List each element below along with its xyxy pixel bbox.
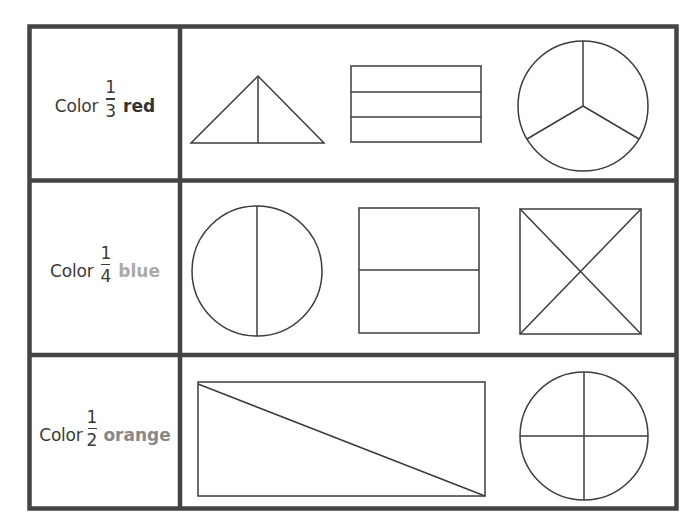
square-halves-shape[interactable]: [359, 208, 479, 333]
fraction-denominator: 4: [100, 268, 111, 285]
fraction-bar: [106, 98, 115, 100]
fraction-one-half: 1 2: [87, 421, 98, 450]
instruction-word: Color: [39, 425, 82, 445]
fraction-denominator: 3: [105, 103, 116, 120]
fraction-bar: [101, 264, 110, 266]
fraction-numerator: 1: [100, 245, 111, 262]
fraction-bar: [88, 428, 97, 430]
instruction-word: Color: [50, 261, 93, 281]
circle-halves-shape[interactable]: [192, 206, 322, 336]
fraction-one-fourth: 1 4: [100, 257, 111, 286]
fraction-one-third: 1 3: [105, 91, 116, 120]
color-word-blue: blue: [118, 261, 160, 281]
row-3-instruction: Color 1 2 orange: [39, 421, 171, 450]
circle-quarters-shape[interactable]: [520, 372, 648, 500]
fraction-denominator: 2: [87, 432, 98, 449]
triangle-halves-shape[interactable]: [191, 76, 324, 143]
square-quarters-diagonal-shape[interactable]: [520, 209, 641, 334]
row-1-instruction: Color 1 3 red: [55, 91, 155, 120]
rectangle-diagonal-halves-shape[interactable]: [198, 382, 485, 496]
row-3-instruction-cell: Color 1 2 orange: [31, 357, 179, 507]
row-2-instruction-cell: Color 1 4 blue: [32, 183, 178, 353]
fraction-numerator: 1: [87, 409, 98, 426]
rectangle-thirds-shape[interactable]: [351, 66, 481, 142]
fraction-coloring-worksheet: Color 1 3 red Color 1 4 blue Color 1: [0, 0, 698, 515]
color-word-red: red: [123, 96, 155, 116]
color-word-orange: orange: [103, 425, 170, 445]
fraction-numerator: 1: [105, 79, 116, 96]
circle-thirds-shape[interactable]: [518, 41, 648, 171]
row-2-instruction: Color 1 4 blue: [50, 257, 160, 286]
row-1-instruction-cell: Color 1 3 red: [32, 29, 178, 178]
instruction-word: Color: [55, 96, 98, 116]
